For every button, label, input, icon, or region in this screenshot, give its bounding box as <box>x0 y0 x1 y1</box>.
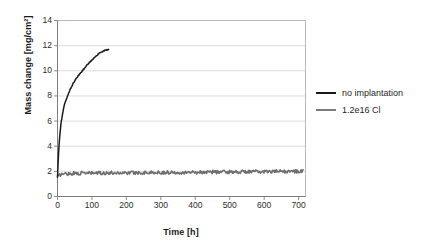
legend-item[interactable]: no implantation <box>316 84 426 101</box>
y-tick-label: 2 <box>26 167 52 176</box>
x-axis-ticks: 0100200300400500600700 <box>0 201 428 215</box>
y-axis-title: Mass change [mg/cm²] <box>23 0 33 145</box>
chart-legend: no implantation1.2e16 Cl <box>316 82 426 120</box>
legend-item-label: 1.2e16 Cl <box>342 105 381 115</box>
x-tick-label: 700 <box>279 201 319 210</box>
plot-background <box>58 21 306 197</box>
x-axis-title: Time [h] <box>57 227 305 237</box>
legend-item-label: no implantation <box>342 88 403 98</box>
legend-line-swatch <box>316 92 336 94</box>
legend-item[interactable]: 1.2e16 Cl <box>316 101 426 118</box>
legend-line-swatch <box>316 109 336 111</box>
chart-figure: 14121086420 0100200300400500600700 Mass … <box>0 0 428 248</box>
y-tick-label: 0 <box>26 192 52 201</box>
